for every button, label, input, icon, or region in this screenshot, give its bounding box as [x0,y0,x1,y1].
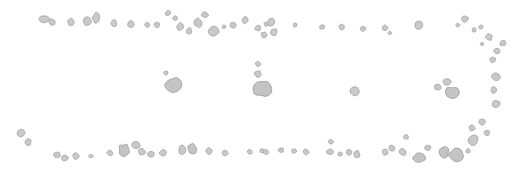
blob-shape [119,144,129,156]
blob-shape [491,87,496,94]
blob-shape [186,28,191,34]
blob-shape [435,84,441,90]
blob-shape [492,100,500,107]
blob-shape [39,16,49,23]
blob-shape [327,149,333,155]
blob-shape [500,40,506,45]
blob-shape [479,25,483,29]
blob-shape [382,149,388,155]
blob-shape [132,142,140,149]
blob-shape [389,145,395,151]
blob-shape [278,148,283,152]
blob-shape [479,119,485,125]
blob-shape [17,129,25,137]
blob-shape [445,87,459,98]
blob-shape [25,139,31,146]
blob-shape [360,26,365,31]
blob-shape [163,71,167,75]
blob-shape [89,154,93,157]
blob-shape [179,145,186,154]
blob-shape [261,32,267,38]
blob-shape [328,139,333,144]
blob-shape [472,28,476,32]
blob-shape [263,149,268,154]
blob-shape [388,31,392,34]
blob-shape [111,20,117,27]
blob-shape [320,25,325,29]
blob-shape [222,150,228,156]
blob-shape [347,149,352,155]
blob-shape [253,82,272,97]
blob-shape [403,135,408,139]
blob-shape [247,149,252,154]
blob-shape [466,149,470,153]
blob-shape [439,147,448,158]
blob-shape [425,145,431,150]
blob-shape [338,152,342,156]
blob-shape [494,48,500,53]
blob-shape [339,24,344,30]
blob-shape [484,130,490,135]
blob-shape [292,149,297,153]
blob-shape [268,18,275,26]
blob-shape [54,152,61,158]
blob-shape [415,21,423,29]
blob-shape [230,22,236,28]
blob-shape [165,10,170,15]
blob-scatter-svg [0,0,523,173]
blob-shape [222,25,226,28]
blob-shape [154,22,159,27]
blob-shape [148,151,155,157]
blob-shape [443,79,451,85]
blob-shape [293,23,297,27]
blob-shape [490,57,496,62]
blob-shape [480,42,484,45]
blob-scatter-canvas [0,0,523,173]
blob-shape [271,29,277,36]
blob-shape [127,21,134,28]
blob-shape [83,17,91,26]
blob-shape [208,26,219,36]
blob-shape [61,155,68,161]
blob-shape [145,22,150,27]
blob-shape [456,23,460,26]
